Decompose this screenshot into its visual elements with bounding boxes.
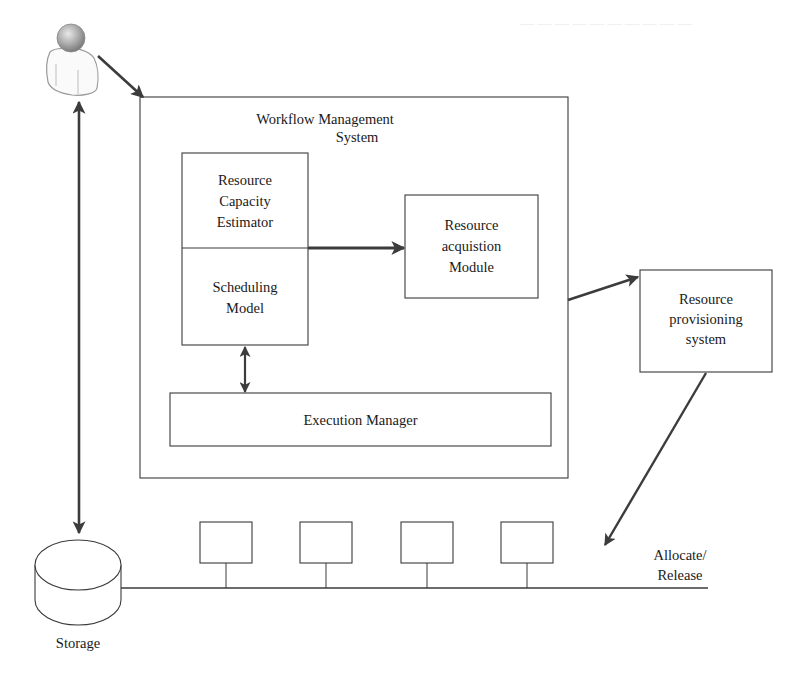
arrow-wms-to-provisioning [568,277,638,300]
scheduling-line2: Model [182,299,308,317]
acquisition-line3: Module [405,258,538,276]
resource-node [300,522,352,588]
provisioning-label: Resource provisioning system [640,290,772,348]
acquisition-label: Resource acquistion Module [405,216,538,276]
resource-node [401,522,453,588]
allocate-release-label: Allocate/ Release [640,546,720,584]
execution-manager-label: Execution Manager [170,411,551,429]
storage-cylinder-icon [35,540,121,625]
estimator-line1: Resource [182,171,308,189]
workflow-title-line2: System [230,128,420,146]
provisioning-line3: system [640,330,772,348]
acquisition-line1: Resource [405,216,538,234]
scheduling-label: Scheduling Model [182,278,308,317]
release-line: Release [640,566,720,584]
arrow-user-to-wms [98,56,143,97]
estimator-line2: Capacity [182,192,308,210]
arrow-provisioning-to-pool [605,373,706,545]
workflow-title-line1: Workflow Management [230,110,420,128]
user-icon [47,24,98,95]
resource-node [200,522,252,588]
estimator-line3: Estimator [182,213,308,231]
provisioning-line2: provisioning [640,310,772,328]
storage-label: Storage [30,634,126,652]
resource-node [501,522,553,588]
provisioning-line1: Resource [640,290,772,308]
allocate-line: Allocate/ [640,546,720,564]
estimator-label: Resource Capacity Estimator [182,171,308,231]
acquisition-line2: acquistion [405,237,538,255]
workflow-system-title: Workflow Management System [230,110,420,146]
scheduling-line1: Scheduling [182,278,308,296]
